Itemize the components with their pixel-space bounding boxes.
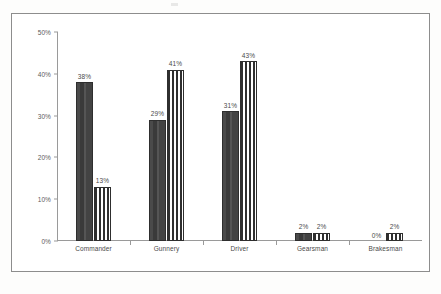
bar-series-2-gearsman[interactable]	[313, 233, 330, 241]
bar-slot: 29%	[149, 32, 166, 241]
bar-value-label: 2%	[299, 224, 309, 231]
bar-value-label: 13%	[96, 178, 109, 185]
y-tick-label-40pct: 40%	[38, 70, 51, 77]
bar-value-label: 2%	[317, 224, 327, 231]
y-tick-label-10pct: 10%	[38, 196, 51, 203]
category-label-brakesman: Brakesman	[349, 245, 422, 252]
bar-group-bars: 31%43%	[203, 32, 276, 241]
bar-series-1-driver[interactable]	[222, 111, 239, 241]
bar-series-1-commander[interactable]	[76, 82, 93, 241]
bar-series-2-driver[interactable]	[240, 61, 257, 241]
y-tick-label-0pct: 0%	[41, 238, 51, 245]
y-tick-label-50pct: 50%	[38, 29, 51, 36]
category-label-gearsman: Gearsman	[276, 245, 349, 252]
bar-group-commander: 38%13%Commander	[57, 32, 130, 241]
bar-series-1-gearsman[interactable]	[295, 233, 312, 241]
bar-group-bars: 38%13%	[57, 32, 130, 241]
bar-group-gunnery: 29%41%Gunnery	[130, 32, 203, 241]
bar-slot: 43%	[240, 32, 257, 241]
bar-group-bars: 0%2%	[349, 32, 422, 241]
category-label-gunnery: Gunnery	[130, 245, 203, 252]
bar-slot: 2%	[295, 32, 312, 241]
y-tick-label-20pct: 20%	[38, 154, 51, 161]
bar-series-2-brakesman[interactable]	[386, 233, 403, 241]
bar-slot: 41%	[167, 32, 184, 241]
bar-group-gearsman: 2%2%Gearsman	[276, 32, 349, 241]
bar-value-label: 41%	[169, 61, 182, 68]
bar-slot: 13%	[94, 32, 111, 241]
bar-value-label: 29%	[151, 111, 164, 118]
bar-series-2-gunnery[interactable]	[167, 70, 184, 241]
bar-slot: 31%	[222, 32, 239, 241]
scan-artifact-speck	[171, 3, 178, 6]
bar-value-label: 38%	[78, 74, 91, 81]
category-label-driver: Driver	[203, 245, 276, 252]
bar-group-brakesman: 0%2%Brakesman	[349, 32, 422, 241]
bar-slot: 2%	[313, 32, 330, 241]
chart-frame: 0%10%20%30%40%50% 38%13%Commander29%41%G…	[11, 13, 430, 272]
bar-slot: 2%	[386, 32, 403, 241]
bar-value-label: 0%	[372, 233, 382, 240]
plot-area: 0%10%20%30%40%50% 38%13%Commander29%41%G…	[57, 32, 422, 241]
bar-slot: 38%	[76, 32, 93, 241]
bar-group-bars: 29%41%	[130, 32, 203, 241]
bar-value-label: 43%	[242, 53, 255, 60]
bar-series-1-gunnery[interactable]	[149, 120, 166, 241]
y-tick-label-30pct: 30%	[38, 112, 51, 119]
bar-value-label: 2%	[390, 224, 400, 231]
bar-group-driver: 31%43%Driver	[203, 32, 276, 241]
bar-group-bars: 2%2%	[276, 32, 349, 241]
bar-value-label: 31%	[224, 103, 237, 110]
category-label-commander: Commander	[57, 245, 130, 252]
bar-slot: 0%	[368, 32, 385, 241]
bar-series-2-commander[interactable]	[94, 187, 111, 241]
